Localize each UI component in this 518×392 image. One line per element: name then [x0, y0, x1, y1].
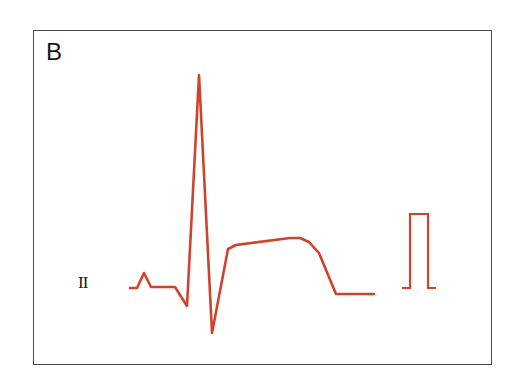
ecg-waveform [130, 75, 374, 333]
calibration-pulse [402, 214, 436, 288]
ecg-diagram [0, 0, 518, 392]
